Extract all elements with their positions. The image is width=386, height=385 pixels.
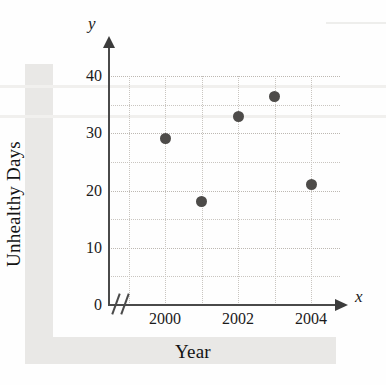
data-point bbox=[269, 91, 280, 102]
data-point bbox=[306, 179, 317, 190]
scatter-plot-figure: y x 403020100 200020022004 Unhealthy Day… bbox=[0, 0, 386, 385]
data-point bbox=[160, 133, 171, 144]
data-point-group bbox=[0, 0, 386, 385]
data-point bbox=[233, 111, 244, 122]
data-point bbox=[196, 196, 207, 207]
